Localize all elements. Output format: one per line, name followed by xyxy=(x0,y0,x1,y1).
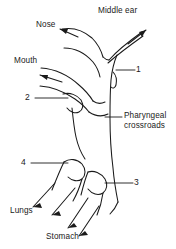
label-nose: Nose xyxy=(36,20,56,30)
lower-pharynx-wall-end xyxy=(110,202,118,214)
oropharynx-lower-junction xyxy=(89,112,108,116)
nose-arrow-head xyxy=(60,29,68,34)
eustachian-tube-upper-line xyxy=(109,32,142,60)
callout-number-3: 3 xyxy=(134,178,139,187)
oesophageal-inlet-loop xyxy=(88,171,107,194)
oral-cavity-upper-curve xyxy=(41,68,93,101)
label-pharyngeal-crossroads: Pharyngeal crossroads xyxy=(124,111,166,130)
oropharynx-upper-junction xyxy=(93,101,105,103)
oral-cavity-lower-curve xyxy=(40,86,89,112)
callout-number-1: 1 xyxy=(136,65,141,74)
mouth-arrow-head xyxy=(40,75,48,80)
label-stomach: Stomach xyxy=(46,232,79,242)
middle-ear-arrow-head xyxy=(139,30,146,37)
label-middle-ear: Middle ear xyxy=(98,6,137,16)
callout-number-2: 2 xyxy=(25,93,30,102)
eustachian-tube-lower-line xyxy=(108,36,143,63)
anatomy-outline-group xyxy=(31,28,146,236)
lungs-arrow-shaft-1 xyxy=(33,183,55,207)
stomach-arrow-shaft-1 xyxy=(68,198,88,228)
nasopharynx-roof-junction xyxy=(103,57,109,60)
nasal-passage-lower-curve xyxy=(64,48,100,77)
posterior-pharyngeal-wall xyxy=(110,55,118,202)
stomach-arrow-shaft-2 xyxy=(79,206,99,236)
label-lungs: Lungs xyxy=(10,206,33,216)
label-mouth: Mouth xyxy=(14,56,37,66)
trachea-posterior-wall xyxy=(73,179,82,201)
callout-number-4: 4 xyxy=(21,158,26,167)
oesophagus-posterior-wall xyxy=(97,193,103,215)
pharyngeal-crossroads-figure: Nose Middle ear Mouth Pharyngeal crossro… xyxy=(0,0,176,249)
trachea-anterior-wall xyxy=(52,162,64,190)
anterior-pharyngeal-wall xyxy=(72,108,85,159)
lungs-arrow-shaft-2 xyxy=(52,188,75,215)
